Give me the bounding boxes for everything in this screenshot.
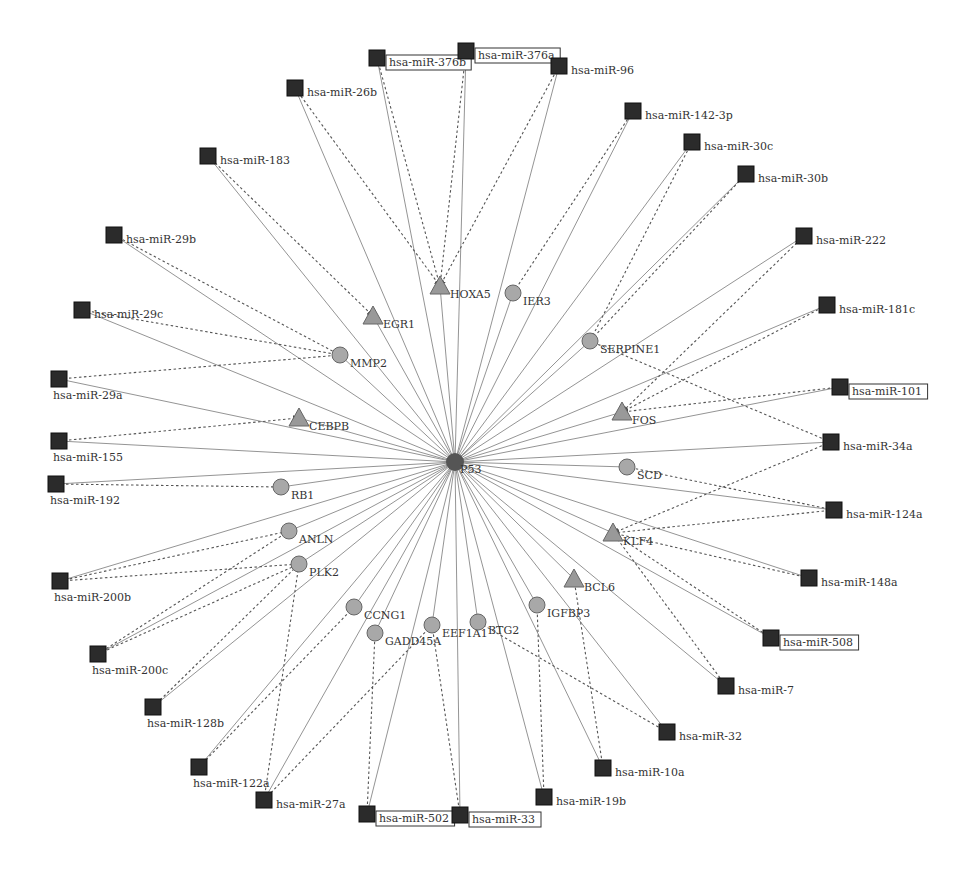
regulation-edge (478, 622, 667, 732)
mirna-node[interactable] (191, 759, 207, 775)
gene-node-circle[interactable] (470, 614, 486, 630)
mirna-label: hsa-miR-19b (556, 795, 626, 808)
mirna-label: hsa-miR-33 (472, 813, 535, 826)
regulation-edge (440, 66, 559, 286)
mirna-node[interactable] (52, 573, 68, 589)
hub-edge (373, 316, 455, 462)
gene-label: MMP2 (350, 357, 387, 370)
mirna-node[interactable] (48, 476, 64, 492)
mirna-node[interactable] (145, 699, 161, 715)
hub-edge (440, 286, 455, 462)
gene-node-circle[interactable] (291, 556, 307, 572)
mirna-node[interactable] (536, 789, 552, 805)
gene-label: ANLN (298, 533, 334, 546)
mirna-node[interactable] (256, 792, 272, 808)
mirna-node[interactable] (458, 43, 474, 59)
hub-edge (60, 462, 455, 581)
hub-edge (114, 235, 455, 462)
gene-node-circle[interactable] (505, 285, 521, 301)
gene-node-circle[interactable] (273, 479, 289, 495)
mirna-label: hsa-miR-101 (852, 385, 922, 398)
gene-node-circle[interactable] (529, 597, 545, 613)
mirna-label: hsa-miR-376b (389, 56, 466, 69)
hub-edges (56, 51, 840, 815)
mirna-node[interactable] (90, 646, 106, 662)
hub-edge (82, 310, 455, 462)
mirna-node[interactable] (200, 148, 216, 164)
mirna-node[interactable] (738, 166, 754, 182)
mirna-node[interactable] (763, 630, 779, 646)
mirna-node[interactable] (625, 103, 641, 119)
mirna-node[interactable] (51, 371, 67, 387)
regulation-edge (440, 51, 466, 286)
mirna-node[interactable] (74, 302, 90, 318)
regulation-edge (613, 533, 771, 638)
gene-label: GADD45A (385, 635, 442, 648)
regulation-edge (199, 607, 354, 767)
gene-node-circle[interactable] (582, 333, 598, 349)
mirna-node[interactable] (51, 433, 67, 449)
regulation-edge (60, 531, 289, 581)
gene-node-triangle[interactable] (363, 306, 383, 324)
gene-node-circle[interactable] (346, 599, 362, 615)
mirna-label: hsa-miR-122a (193, 777, 270, 790)
hub-edge (455, 462, 537, 605)
mirna-label: hsa-miR-29c (94, 308, 163, 321)
mirna-node[interactable] (287, 80, 303, 96)
regulation-edge (590, 341, 831, 442)
hub-edge (295, 88, 455, 462)
mirna-node[interactable] (595, 760, 611, 776)
mirna-label: hsa-miR-142-3p (645, 109, 733, 122)
hub-edge (455, 462, 574, 579)
regulation-edge (295, 88, 440, 286)
mirna-node[interactable] (826, 502, 842, 518)
mirna-node[interactable] (819, 297, 835, 313)
mirna-node[interactable] (801, 570, 817, 586)
mirna-node[interactable] (551, 58, 567, 74)
gene-node-circle[interactable] (332, 347, 348, 363)
mirna-label: hsa-miR-30b (758, 172, 828, 185)
regulation-edge (432, 625, 460, 815)
regulation-edge (613, 533, 726, 686)
gene-node-triangle[interactable] (289, 408, 309, 426)
mirna-label: hsa-miR-29b (126, 233, 196, 246)
mirna-label: hsa-miR-376a (478, 49, 555, 62)
hub-edge (455, 66, 559, 462)
mirna-node[interactable] (452, 807, 468, 823)
gene-label: EGR1 (383, 318, 415, 331)
gene-node-circle[interactable] (281, 523, 297, 539)
nodes: P53HOXA5IER3EGR1SERPINE1MMP2FOSCEBPBSCDR… (48, 43, 928, 827)
gene-label: IER3 (523, 295, 551, 308)
mirna-node[interactable] (659, 724, 675, 740)
mirna-node[interactable] (684, 134, 700, 150)
mirna-label: hsa-miR-124a (846, 508, 923, 521)
regulation-edge (622, 236, 804, 412)
gene-label: BCL6 (584, 581, 615, 594)
mirna-label: hsa-miR-183 (220, 154, 290, 167)
mirna-node[interactable] (832, 379, 848, 395)
hub-edge (455, 51, 466, 462)
regulation-edge (613, 442, 831, 533)
mirna-label: hsa-miR-508 (783, 636, 853, 649)
mirna-label: hsa-miR-26b (307, 86, 377, 99)
mirna-label: hsa-miR-192 (50, 494, 120, 507)
gene-label: BTG2 (488, 624, 519, 637)
gene-node-circle[interactable] (367, 625, 383, 641)
mirna-node[interactable] (106, 227, 122, 243)
mirna-node[interactable] (359, 806, 375, 822)
gene-node-triangle[interactable] (430, 276, 450, 294)
gene-node-circle[interactable] (619, 459, 635, 475)
network-diagram: P53HOXA5IER3EGR1SERPINE1MMP2FOSCEBPBSCDR… (0, 0, 960, 870)
mirna-node[interactable] (823, 434, 839, 450)
mirna-node[interactable] (369, 50, 385, 66)
mirna-label: hsa-miR-222 (816, 234, 886, 247)
regulation-edge (264, 564, 299, 800)
hub-edge (354, 462, 455, 607)
mirna-label: hsa-miR-200b (54, 591, 131, 604)
gene-node-circle[interactable] (424, 617, 440, 633)
mirna-node[interactable] (718, 678, 734, 694)
regulation-edge (590, 174, 746, 341)
mirna-label: hsa-miR-200c (92, 664, 168, 677)
regulation-edge (208, 156, 373, 316)
mirna-node[interactable] (796, 228, 812, 244)
